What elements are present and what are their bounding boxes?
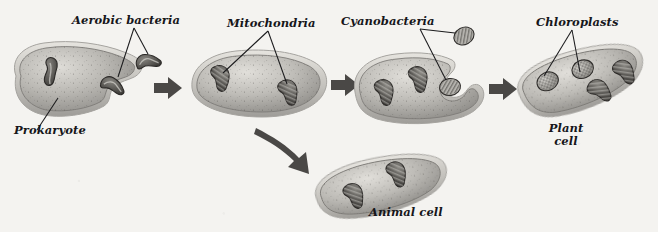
- stage-4-plant-cell: [512, 33, 652, 126]
- stage-3-cyanobacteria-cell: [354, 53, 483, 124]
- label-plant-cell-line2: cell: [543, 135, 589, 148]
- stage-2-mitochondria-cell: [192, 50, 327, 117]
- endosymbiosis-diagram: Aerobic bacteria Mitochondria Cyanobacte…: [0, 0, 658, 232]
- label-animal-cell: Animal cell: [369, 206, 443, 219]
- label-chloroplasts: Chloroplasts: [536, 16, 619, 29]
- label-mitochondria: Mitochondria: [227, 17, 316, 30]
- label-plant-cell-line1: Plant: [543, 122, 589, 135]
- arrow-prokaryote-to-mitochondria: [154, 77, 182, 99]
- label-prokaryote: Prokaryote: [14, 124, 86, 137]
- aerobic-bacterium-free: [135, 51, 162, 70]
- diagram-canvas: [0, 0, 658, 232]
- label-aerobic-bacteria: Aerobic bacteria: [72, 14, 180, 27]
- arrow-cyanobacteria-to-plant-cell: [489, 78, 517, 100]
- label-cyanobacteria: Cyanobacteria: [341, 15, 435, 28]
- arrow-branch-to-animal-cell: [254, 128, 309, 174]
- label-plant-cell: Plant cell: [543, 122, 589, 148]
- cyanobacterium-free: [451, 24, 478, 49]
- stage-1-prokaryote-cell: [14, 42, 142, 117]
